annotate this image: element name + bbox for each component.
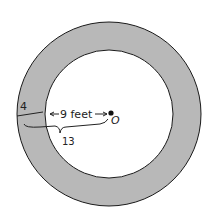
center-label: O [111,114,120,127]
radius-label: 9 feet [60,108,93,121]
ring-diagram: 4 9 feet O 13 [0,0,216,217]
total-label: 13 [62,136,75,147]
ring-width-label: 4 [20,100,27,113]
